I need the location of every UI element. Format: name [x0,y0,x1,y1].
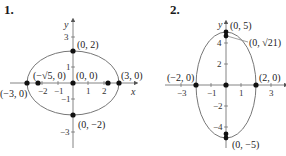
y-tick: 2 [217,59,222,69]
graph-1-number: 1. [4,2,14,17]
y-axis-label: y [63,19,69,30]
point-label-top: (0, 2) [77,39,99,51]
x-tick: 2 [102,86,107,96]
point-label-top: (0, 5) [230,20,252,32]
y-tick: −3 [60,127,70,137]
point-label-bottom: (0, −2) [78,119,105,131]
y-tick: −4 [213,122,223,132]
graph-2-number: 2. [170,2,180,17]
x-tick: 1 [239,88,244,98]
point-label-right: (2, 0) [259,72,281,84]
x-tick: 3 [269,88,274,98]
y-tick: −1 [61,94,71,104]
point-label-left: (−3, 0) [0,88,27,100]
y-tick: 4 [217,38,222,48]
y-axis-label: y [217,19,223,30]
y-tick: 1 [66,62,71,72]
figure: 1. x y −2 −1 1 2 3 1 −1 −3 [0,0,286,156]
x-tick: 1 [86,86,91,96]
leader-line [227,36,248,42]
graph-2: 2. y −3 −1 1 3 4 2 −2 −4 [165,2,286,151]
graph-1: 1. x y −2 −1 1 2 3 1 −1 −3 [0,2,143,148]
point-label-root21: (0, √21) [249,37,281,49]
point-label-right: (3, 0) [121,70,143,82]
x-axis-label: x [130,86,136,97]
point-label-bottom: (0, −5) [232,139,259,151]
point-label-origin: (0, 0) [76,70,98,82]
point-label-left: (−2, 0) [167,72,194,84]
x-tick: −2 [38,86,48,96]
x-tick: −1 [207,88,217,98]
y-tick: −2 [213,101,223,111]
y-tick: 3 [64,32,69,42]
x-tick: −3 [177,88,187,98]
point-label-neg-root5: (−√5, 0) [33,70,66,82]
